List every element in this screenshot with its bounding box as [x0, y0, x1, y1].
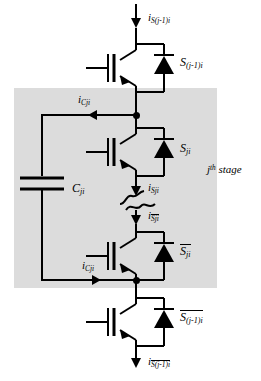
- label-switch-bottom-subscript: (j-1)i: [186, 316, 203, 325]
- label-switch-third: Sji: [180, 244, 191, 259]
- switch-top: [86, 38, 178, 100]
- switch-second: [86, 122, 178, 184]
- label-current-second: iSji: [148, 182, 159, 195]
- label-current-top-subscript: S(j-1)i: [151, 16, 170, 25]
- label-current-third-subscript: Sji: [151, 214, 159, 222]
- label-switch-bottom: S(j-1)i: [180, 310, 203, 325]
- label-capacitor-symbol: C: [72, 181, 80, 195]
- label-current-bottom-subscript: S(j-1)i: [151, 360, 170, 368]
- label-current-top: iS(j-1)i: [148, 12, 170, 25]
- label-current-second-subscript: Sji: [151, 186, 159, 195]
- label-capacitor-subscript: ji: [80, 187, 85, 196]
- label-switch-third-subscript: ji: [186, 250, 191, 259]
- label-current-cap-upper-subscript: Cji: [81, 98, 90, 107]
- label-capacitor: Cji: [72, 182, 85, 196]
- switch-bottom: [86, 292, 178, 354]
- label-stage-superscript: th: [210, 164, 216, 172]
- circuit-diagram-canvas: iS(j-1)i S(j-1)i iCji Sji iSji Cji jth s…: [0, 0, 261, 381]
- label-current-cap-lower-subscript: Cji: [85, 264, 94, 273]
- label-current-bottom: iS(j-1)i: [148, 356, 170, 369]
- wire-cap-upper-vertical: [41, 114, 43, 176]
- label-current-third: iSji: [148, 210, 159, 223]
- arrow-current-bottom: [131, 358, 141, 368]
- label-stage: jth stage: [207, 164, 242, 175]
- wire-cap-lower-vertical: [41, 189, 43, 281]
- label-current-cap-upper: iCji: [78, 94, 90, 107]
- label-stage-text: stage: [218, 163, 241, 175]
- label-switch-second-subscript: ji: [186, 147, 191, 156]
- label-switch-third-group: Sji: [180, 244, 191, 259]
- label-switch-top: S(j-1)i: [180, 56, 203, 70]
- flying-capacitor: [18, 172, 68, 198]
- label-current-cap-lower: iCji: [82, 260, 94, 273]
- label-switch-top-subscript: (j-1)i: [186, 61, 203, 70]
- arrow-current-cap-upper: [88, 110, 97, 120]
- switch-third: [86, 226, 178, 288]
- arrow-current-top: [131, 18, 141, 28]
- label-switch-second: Sji: [180, 142, 191, 156]
- label-switch-bottom-group: S(j-1)i: [180, 310, 203, 325]
